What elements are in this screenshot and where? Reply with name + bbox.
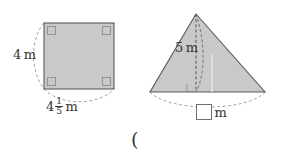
square-figure xyxy=(34,23,115,102)
square-base-fraction-denominator: 5 xyxy=(55,106,63,116)
triangle-height-unit: m xyxy=(186,40,198,55)
square-height-label: 4m xyxy=(13,48,36,61)
worksheet-page: 4m 4 1 5 m 5m m ( xyxy=(0,0,284,157)
square-base-fraction: 1 5 xyxy=(55,97,63,117)
triangle-base-label: m xyxy=(196,104,227,120)
square-base-whole: 4 xyxy=(46,100,54,113)
triangle-height-label: 5m xyxy=(175,41,198,54)
triangle-base-unit: m xyxy=(215,106,227,119)
triangle-base-answer-input[interactable] xyxy=(196,104,212,120)
square-base-unit: m xyxy=(66,100,78,113)
square-height-unit: m xyxy=(24,47,36,62)
stray-parenthesis-glyph: ( xyxy=(131,128,138,150)
triangle-shape xyxy=(150,14,265,92)
triangle-height-value: 5 xyxy=(175,40,183,55)
triangle-figure xyxy=(150,14,265,107)
square-height-value: 4 xyxy=(13,47,21,62)
square-base-label: 4 1 5 m xyxy=(46,97,78,117)
square-base-fraction-numerator: 1 xyxy=(55,97,63,106)
figures-svg xyxy=(0,0,284,157)
square-shape xyxy=(44,23,114,89)
